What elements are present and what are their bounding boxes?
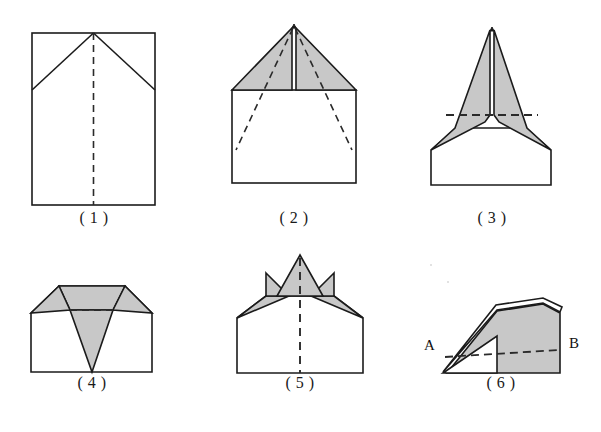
figure-sheet: ( 1 ) ( 2 ) <box>0 0 601 432</box>
fig6-label-a: A <box>424 337 435 354</box>
fig2-left-shaded-flap <box>232 28 292 90</box>
figure-3 <box>400 0 601 220</box>
figure-1 <box>0 0 200 220</box>
fig2-body-outline <box>232 90 356 183</box>
figure-6-caption: ( 6 ) <box>470 374 532 392</box>
figure-3-drawing <box>400 0 601 220</box>
figure-2 <box>200 0 400 220</box>
fig2-apex-point <box>292 24 296 28</box>
figure-3-caption: ( 3 ) <box>461 209 523 227</box>
figure-2-caption: ( 2 ) <box>263 209 325 227</box>
figure-5-caption: ( 5 ) <box>269 374 331 392</box>
fig6-label-b: B <box>569 335 579 352</box>
fig2-right-shaded-flap <box>296 28 356 90</box>
figure-4-caption: ( 4 ) <box>61 374 123 392</box>
fig3-apex-point <box>490 27 494 31</box>
figure-2-drawing <box>200 0 400 220</box>
figure-1-drawing <box>0 0 200 220</box>
figure-1-caption: ( 1 ) <box>63 209 125 227</box>
